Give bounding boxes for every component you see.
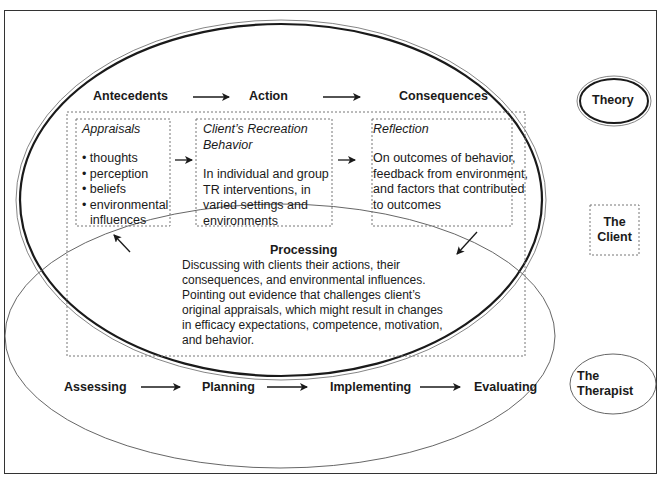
reflection-title: Reflection: [373, 122, 528, 136]
reflection-body-line: On outcomes of behavior,: [373, 151, 528, 167]
processing-body-line: Pointing out evidence that challenges cl…: [182, 288, 443, 303]
implementing-label: Implementing: [330, 380, 411, 394]
behavior-content: Client’s Recreation Behavior In individu…: [203, 122, 329, 229]
processing-body: Discussing with clients their actions, t…: [182, 258, 443, 348]
processing-body-line: original appraisals, which might result …: [182, 303, 443, 318]
arrow-processing-appraisals: [114, 235, 130, 252]
processing-body-line: and behavior.: [182, 333, 443, 348]
behavior-body-line: environments: [203, 214, 329, 230]
reflection-body-line: to outcomes: [373, 198, 528, 214]
antecedents-label: Antecedents: [93, 89, 168, 103]
processing-body-line: consequences, and environmental influenc…: [182, 273, 443, 288]
consequences-label: Consequences: [399, 89, 488, 103]
appraisals-title: Appraisals: [82, 122, 168, 136]
reflection-content: Reflection On outcomes of behavior, feed…: [373, 122, 528, 213]
planning-label: Planning: [202, 380, 255, 394]
therapist-label: The Therapist: [577, 369, 633, 399]
appraisal-item: beliefs: [82, 182, 168, 198]
therapist-label-line2: Therapist: [577, 384, 633, 399]
processing-title: Processing: [270, 243, 337, 257]
client-label-line1: The: [590, 215, 639, 230]
appraisals-content: Appraisals thoughts perception beliefs e…: [82, 122, 168, 229]
appraisal-item: environmental: [82, 198, 168, 214]
appraisal-item: perception: [82, 167, 168, 183]
appraisal-item: thoughts: [82, 151, 168, 167]
client-label: The Client: [590, 215, 639, 245]
behavior-title-line1: Client’s Recreation: [203, 122, 329, 138]
appraisals-list: thoughts perception beliefs environmenta…: [82, 151, 168, 213]
behavior-body-line: TR interventions, in: [203, 183, 329, 199]
evaluating-label: Evaluating: [474, 380, 537, 394]
processing-body-line: Discussing with clients their actions, t…: [182, 258, 443, 273]
arrow-reflection-processing: [457, 232, 477, 254]
reflection-body-line: and factors that contributed: [373, 182, 528, 198]
therapist-label-line1: The: [577, 369, 633, 384]
assessing-label: Assessing: [64, 380, 127, 394]
behavior-body-line: varied settings and: [203, 198, 329, 214]
client-label-line2: Client: [590, 230, 639, 245]
theory-label: Theory: [592, 93, 634, 107]
appraisal-item-continuation: influences: [82, 213, 168, 229]
reflection-body-line: feedback from environment,: [373, 167, 528, 183]
behavior-body-line: In individual and group: [203, 167, 329, 183]
action-label: Action: [249, 89, 288, 103]
processing-body-line: in efficacy expectations, competence, mo…: [182, 318, 443, 333]
behavior-title-line2: Behavior: [203, 138, 329, 154]
